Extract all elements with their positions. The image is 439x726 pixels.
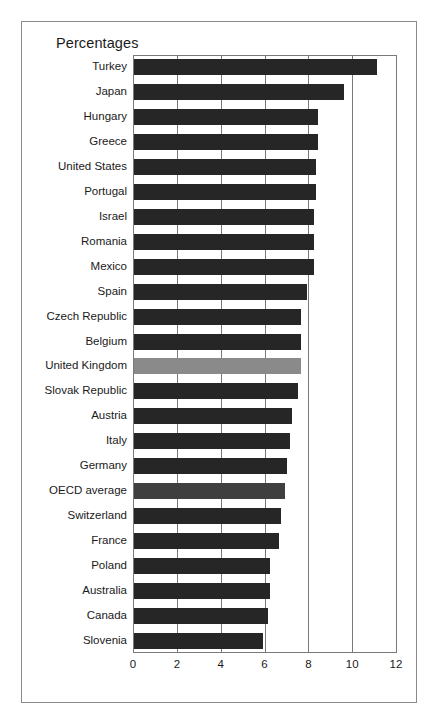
category-label: Austria bbox=[91, 411, 127, 423]
category-label: Czech Republic bbox=[46, 311, 127, 323]
bar bbox=[134, 334, 301, 350]
chart-title: Percentages bbox=[56, 35, 139, 51]
bar-row: Israel bbox=[134, 209, 314, 225]
category-label: Hungary bbox=[84, 112, 127, 124]
category-label: Germany bbox=[80, 460, 127, 472]
bar bbox=[134, 558, 270, 574]
bar-row: Belgium bbox=[134, 334, 301, 350]
bar-row: Turkey bbox=[134, 59, 377, 75]
bar bbox=[134, 259, 314, 275]
bar bbox=[134, 433, 290, 449]
category-label: Romania bbox=[81, 236, 127, 248]
bar-row: Poland bbox=[134, 558, 270, 574]
category-label: Greece bbox=[89, 136, 127, 148]
bar-row: Canada bbox=[134, 608, 268, 624]
bar-row: Italy bbox=[134, 433, 290, 449]
bar bbox=[134, 109, 318, 125]
category-label: Japan bbox=[96, 87, 127, 99]
bar-row: Japan bbox=[134, 84, 344, 100]
bar bbox=[134, 608, 268, 624]
category-label: Portugal bbox=[84, 186, 127, 198]
bar bbox=[134, 184, 316, 200]
x-tick-label: 12 bbox=[390, 659, 403, 671]
category-label: United States bbox=[58, 161, 127, 173]
gridline bbox=[352, 55, 353, 653]
bar-row: Czech Republic bbox=[134, 309, 301, 325]
category-label: Canada bbox=[87, 610, 127, 622]
bar-row: Spain bbox=[134, 284, 307, 300]
bar bbox=[134, 209, 314, 225]
category-label: Italy bbox=[106, 435, 127, 447]
x-tick-label: 8 bbox=[305, 659, 311, 671]
bar bbox=[134, 234, 314, 250]
category-label: Belgium bbox=[85, 336, 127, 348]
bar-row: France bbox=[134, 533, 279, 549]
bar-row: Slovenia bbox=[134, 633, 263, 649]
bar-row: Germany bbox=[134, 458, 287, 474]
x-tick-label: 2 bbox=[174, 659, 180, 671]
bar bbox=[134, 533, 279, 549]
bar bbox=[134, 633, 263, 649]
category-label: Slovak Republic bbox=[45, 386, 127, 398]
bar-row: Romania bbox=[134, 234, 314, 250]
chart-figure: Percentages TurkeyJapanHungaryGreeceUnit… bbox=[21, 21, 417, 703]
bar-row: Austria bbox=[134, 408, 292, 424]
bar bbox=[134, 458, 287, 474]
x-tick-label: 0 bbox=[130, 659, 136, 671]
x-tick-label: 10 bbox=[346, 659, 359, 671]
bar-row: Mexico bbox=[134, 259, 314, 275]
bar bbox=[134, 383, 298, 399]
x-axis-tick-labels: 024681012 bbox=[133, 659, 396, 677]
bar-row: United States bbox=[134, 159, 316, 175]
category-label: OECD average bbox=[49, 485, 127, 497]
bar bbox=[134, 84, 344, 100]
x-tick-label: 4 bbox=[217, 659, 223, 671]
bar bbox=[134, 284, 307, 300]
category-label: Poland bbox=[91, 560, 127, 572]
category-label: Australia bbox=[82, 585, 127, 597]
bar-row: Slovak Republic bbox=[134, 383, 298, 399]
bar-row: OECD average bbox=[134, 483, 285, 499]
bar bbox=[134, 134, 318, 150]
bar-row: Greece bbox=[134, 134, 318, 150]
bar bbox=[134, 483, 285, 499]
category-label: Switzerland bbox=[68, 510, 127, 522]
category-label: United Kingdom bbox=[45, 361, 127, 373]
bar-row: Hungary bbox=[134, 109, 318, 125]
bar bbox=[134, 358, 301, 374]
bar-row: Switzerland bbox=[134, 508, 281, 524]
plot-area: TurkeyJapanHungaryGreeceUnited StatesPor… bbox=[133, 55, 396, 653]
category-label: Slovenia bbox=[83, 635, 127, 647]
category-label: France bbox=[91, 535, 127, 547]
x-tick-label: 6 bbox=[261, 659, 267, 671]
bar bbox=[134, 408, 292, 424]
category-label: Turkey bbox=[92, 62, 127, 74]
bar bbox=[134, 59, 377, 75]
bar bbox=[134, 159, 316, 175]
category-label: Spain bbox=[98, 286, 127, 298]
bar bbox=[134, 508, 281, 524]
bar-row: Portugal bbox=[134, 184, 316, 200]
bar-row: Australia bbox=[134, 583, 270, 599]
bar bbox=[134, 583, 270, 599]
category-label: Mexico bbox=[91, 261, 127, 273]
bar-row: United Kingdom bbox=[134, 358, 301, 374]
gridline bbox=[396, 55, 397, 653]
category-label: Israel bbox=[99, 211, 127, 223]
bar bbox=[134, 309, 301, 325]
